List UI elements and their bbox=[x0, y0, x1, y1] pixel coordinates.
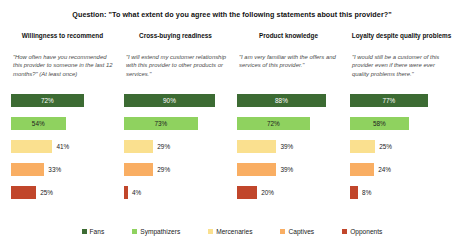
legend-item[interactable]: Fans bbox=[82, 228, 105, 235]
bar-fans: 88% bbox=[237, 94, 326, 107]
bar-value-label: 41% bbox=[56, 143, 69, 150]
panel-header: Cross-buying readiness bbox=[124, 32, 227, 48]
bar-value-label: 29% bbox=[157, 166, 170, 173]
bar-value-label: 77% bbox=[382, 97, 395, 104]
bar-sympathizers: 72% bbox=[237, 117, 310, 130]
panel-quote: "I would still be a customer of this pro… bbox=[350, 53, 453, 83]
panel-header: Loyalty despite quality problems bbox=[350, 32, 453, 48]
legend-item[interactable]: Opponents bbox=[342, 228, 382, 235]
bar-row: 4% bbox=[124, 181, 227, 204]
bar-mercenaries bbox=[237, 140, 276, 153]
bar-mercenaries bbox=[350, 140, 375, 153]
chart-title: Question: "To what extent do you agree w… bbox=[0, 11, 464, 19]
bar-fans: 72% bbox=[11, 94, 84, 107]
legend-label: Mercenaries bbox=[216, 228, 252, 235]
bar-fans: 90% bbox=[124, 94, 215, 107]
legend-swatch-icon bbox=[82, 229, 87, 234]
panel-bars: 90%73%29%29%4% bbox=[124, 89, 227, 204]
panel-header: Product knowledge bbox=[237, 32, 340, 48]
legend-label: Fans bbox=[90, 228, 105, 235]
bar-value-label: 4% bbox=[132, 189, 141, 196]
bar-value-label: 72% bbox=[267, 120, 280, 127]
bar-captives bbox=[237, 163, 276, 176]
bar-row: 20% bbox=[237, 181, 340, 204]
panel-columns: Willingness to recommend"How often have … bbox=[0, 32, 464, 204]
bar-sympathizers: 73% bbox=[124, 117, 198, 130]
bar-mercenaries bbox=[124, 140, 153, 153]
bar-row: 24% bbox=[350, 158, 453, 181]
bar-value-label: 8% bbox=[362, 189, 371, 196]
panel-bars: 77%58%25%24%8% bbox=[350, 89, 453, 204]
bar-opponents bbox=[237, 186, 257, 199]
bar-fans: 77% bbox=[350, 94, 428, 107]
survey-bar-chart: Question: "To what extent do you agree w… bbox=[0, 11, 464, 246]
legend-item[interactable]: Captives bbox=[280, 228, 314, 235]
bar-captives bbox=[11, 163, 44, 176]
bar-value-label: 25% bbox=[40, 189, 53, 196]
bar-row: 77% bbox=[350, 89, 453, 112]
bar-row: 58% bbox=[350, 112, 453, 135]
bar-row: 88% bbox=[237, 89, 340, 112]
panel-bars: 88%72%39%39%20% bbox=[237, 89, 340, 204]
legend-label: Captives bbox=[288, 228, 314, 235]
bar-row: 39% bbox=[237, 158, 340, 181]
legend-item[interactable]: Mercenaries bbox=[208, 228, 252, 235]
bar-value-label: 73% bbox=[154, 120, 167, 127]
panel-quote: "I am very familiar with the offers and … bbox=[237, 53, 340, 83]
bar-row: 73% bbox=[124, 112, 227, 135]
legend-swatch-icon bbox=[342, 229, 347, 234]
bar-row: 29% bbox=[124, 158, 227, 181]
bar-value-label: 88% bbox=[275, 97, 288, 104]
bar-value-label: 54% bbox=[32, 120, 45, 127]
panel-bars: 72%54%41%33%25% bbox=[11, 89, 114, 204]
panel-column: Loyalty despite quality problems"I would… bbox=[345, 32, 458, 204]
bar-row: 54% bbox=[11, 112, 114, 135]
bar-row: 72% bbox=[237, 112, 340, 135]
bar-captives bbox=[124, 163, 153, 176]
bar-value-label: 25% bbox=[379, 143, 392, 150]
bar-row: 90% bbox=[124, 89, 227, 112]
bar-value-label: 39% bbox=[280, 166, 293, 173]
panel-column: Willingness to recommend"How often have … bbox=[6, 32, 119, 204]
legend-item[interactable]: Sympathizers bbox=[132, 228, 180, 235]
bar-sympathizers: 54% bbox=[11, 117, 66, 130]
legend-swatch-icon bbox=[132, 229, 137, 234]
bar-value-label: 24% bbox=[378, 166, 391, 173]
bar-value-label: 29% bbox=[157, 143, 170, 150]
panel-quote: "How often have you recommended this pro… bbox=[11, 53, 114, 83]
bar-captives bbox=[350, 163, 374, 176]
bar-value-label: 33% bbox=[48, 166, 61, 173]
bar-row: 25% bbox=[350, 135, 453, 158]
bar-value-label: 58% bbox=[373, 120, 386, 127]
bar-sympathizers: 58% bbox=[350, 117, 409, 130]
bar-opponents bbox=[11, 186, 36, 199]
bar-value-label: 72% bbox=[41, 97, 54, 104]
bar-row: 41% bbox=[11, 135, 114, 158]
bar-opponents bbox=[124, 186, 128, 199]
chart-legend: FansSympathizersMercenariesCaptivesOppon… bbox=[0, 228, 464, 235]
bar-row: 8% bbox=[350, 181, 453, 204]
legend-swatch-icon bbox=[208, 229, 213, 234]
panel-quote: "I will extend my customer relationship … bbox=[124, 53, 227, 83]
panel-column: Product knowledge"I am very familiar wit… bbox=[232, 32, 345, 204]
panel-column: Cross-buying readiness"I will extend my … bbox=[119, 32, 232, 204]
bar-value-label: 90% bbox=[163, 97, 176, 104]
bar-mercenaries bbox=[11, 140, 52, 153]
bar-row: 33% bbox=[11, 158, 114, 181]
bar-opponents bbox=[350, 186, 358, 199]
bar-value-label: 20% bbox=[261, 189, 274, 196]
legend-swatch-icon bbox=[280, 229, 285, 234]
legend-label: Opponents bbox=[350, 228, 382, 235]
bar-value-label: 39% bbox=[280, 143, 293, 150]
bar-row: 29% bbox=[124, 135, 227, 158]
panel-header: Willingness to recommend bbox=[11, 32, 114, 48]
legend-label: Sympathizers bbox=[140, 228, 180, 235]
bar-row: 25% bbox=[11, 181, 114, 204]
bar-row: 39% bbox=[237, 135, 340, 158]
bar-row: 72% bbox=[11, 89, 114, 112]
